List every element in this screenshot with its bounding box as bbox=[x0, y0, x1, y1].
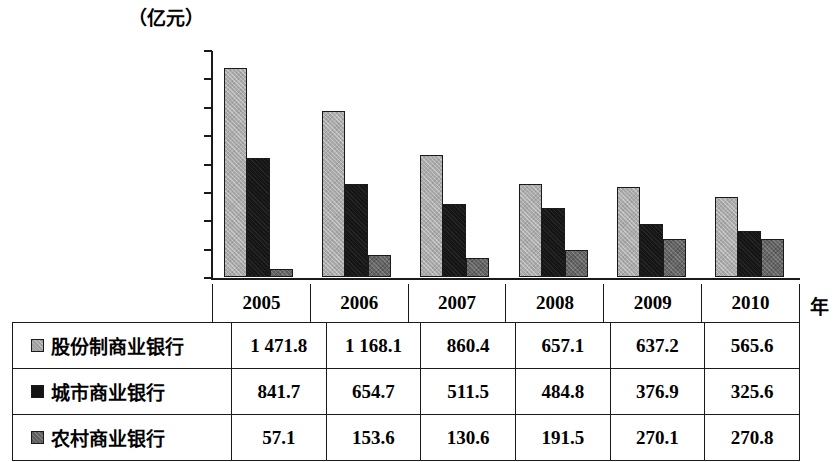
table-cell: 191.5 bbox=[515, 415, 610, 461]
table-row-label: 股份制商业银行 bbox=[13, 323, 232, 369]
x-axis-year-label: 2008 bbox=[506, 284, 604, 322]
table-row-label: 农村商业银行 bbox=[13, 415, 232, 461]
table-cell: 270.1 bbox=[610, 415, 705, 461]
table-cell: 565.6 bbox=[705, 323, 800, 369]
x-axis-unit-label: 年 bbox=[810, 292, 829, 319]
bar bbox=[466, 258, 489, 277]
table-cell: 270.8 bbox=[705, 415, 800, 461]
bar bbox=[663, 239, 686, 277]
table-cell: 657.1 bbox=[515, 323, 610, 369]
series-name: 城市商业银行 bbox=[51, 382, 165, 404]
table-cell: 1 168.1 bbox=[326, 323, 421, 369]
bar bbox=[761, 239, 784, 277]
legend-swatch-icon bbox=[31, 431, 44, 444]
bar bbox=[738, 231, 761, 277]
bar bbox=[270, 269, 293, 277]
table-cell: 376.9 bbox=[610, 369, 705, 415]
table-cell: 1 471.8 bbox=[232, 323, 327, 369]
bar bbox=[715, 197, 738, 277]
legend-swatch-icon bbox=[31, 339, 44, 352]
bar-group bbox=[604, 50, 702, 277]
table-cell: 860.4 bbox=[421, 323, 516, 369]
x-axis-year-label: 2005 bbox=[213, 284, 311, 322]
x-axis-year-label: 2006 bbox=[311, 284, 409, 322]
table-cell: 325.6 bbox=[705, 369, 800, 415]
bar bbox=[617, 187, 640, 277]
bar-group bbox=[407, 50, 505, 277]
bar bbox=[224, 68, 247, 277]
table-cell: 484.8 bbox=[515, 369, 610, 415]
bar-group bbox=[702, 50, 800, 277]
series-name: 股份制商业银行 bbox=[51, 336, 184, 358]
x-axis-year-row: 200520062007200820092010 bbox=[212, 284, 800, 322]
bar-group bbox=[211, 50, 309, 277]
x-axis-year-label: 2009 bbox=[604, 284, 702, 322]
x-axis-line bbox=[211, 278, 800, 280]
bar bbox=[519, 184, 542, 277]
table-cell: 57.1 bbox=[232, 415, 327, 461]
y-axis-tick bbox=[204, 277, 212, 279]
table-row: 股份制商业银行1 471.81 168.1860.4657.1637.2565.… bbox=[13, 323, 800, 369]
table-row: 农村商业银行57.1153.6130.6191.5270.1270.8 bbox=[13, 415, 800, 461]
table-cell: 130.6 bbox=[421, 415, 516, 461]
bar bbox=[247, 158, 270, 277]
y-axis-unit-label: （亿元） bbox=[128, 6, 204, 30]
table-row: 城市商业银行841.7654.7511.5484.8376.9325.6 bbox=[13, 369, 800, 415]
bar bbox=[345, 184, 368, 277]
bar bbox=[640, 224, 663, 277]
bar bbox=[420, 155, 443, 277]
data-table: 股份制商业银行1 471.81 168.1860.4657.1637.2565.… bbox=[12, 322, 800, 461]
bar bbox=[322, 111, 345, 277]
table-cell: 511.5 bbox=[421, 369, 516, 415]
x-axis-year-label: 2007 bbox=[409, 284, 507, 322]
bar bbox=[443, 204, 466, 277]
table-cell: 637.2 bbox=[610, 323, 705, 369]
bar bbox=[542, 208, 565, 277]
data-table-body: 股份制商业银行1 471.81 168.1860.4657.1637.2565.… bbox=[13, 323, 800, 461]
chart-plot-area bbox=[211, 51, 800, 279]
legend-swatch-icon bbox=[31, 385, 44, 398]
table-cell: 153.6 bbox=[326, 415, 421, 461]
table-cell: 654.7 bbox=[326, 369, 421, 415]
table-row-label: 城市商业银行 bbox=[13, 369, 232, 415]
bar bbox=[565, 250, 588, 277]
bar-group bbox=[309, 50, 407, 277]
x-axis-year-label: 2010 bbox=[702, 284, 799, 322]
series-name: 农村商业银行 bbox=[51, 428, 165, 450]
bar bbox=[368, 255, 391, 277]
bar-group bbox=[506, 50, 604, 277]
table-cell: 841.7 bbox=[232, 369, 327, 415]
